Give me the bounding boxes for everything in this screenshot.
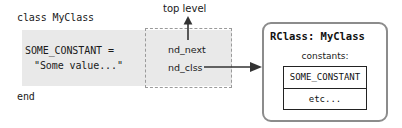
constants-table-label: constants: bbox=[262, 51, 388, 61]
node-field-nd-clss: nd_clss bbox=[168, 62, 203, 73]
table-row: SOME_CONSTANT bbox=[284, 67, 366, 88]
ruby-class-node-diagram: class MyClass SOME_CONSTANT = "Some valu… bbox=[0, 0, 402, 128]
arrow-up-icon bbox=[182, 16, 194, 40]
table-row: etc... bbox=[284, 88, 366, 109]
code-line-constant-name: SOME_CONSTANT = bbox=[25, 45, 114, 56]
code-line-class-declaration: class MyClass bbox=[17, 12, 94, 23]
code-line-constant-value: "Some value..." bbox=[34, 60, 123, 71]
constants-table: SOME_CONSTANT etc... bbox=[283, 66, 367, 110]
top-level-label: top level bbox=[163, 3, 206, 14]
rclass-panel-title: RClass: MyClass bbox=[270, 30, 365, 42]
arrow-right-icon bbox=[204, 60, 264, 74]
code-line-end: end bbox=[17, 91, 35, 102]
node-field-nd-next: nd_next bbox=[168, 44, 206, 55]
